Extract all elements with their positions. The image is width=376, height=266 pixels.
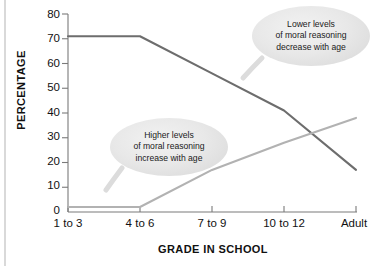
callout-lower-levels: Lower levels of moral reasoning decrease… [252,6,370,66]
callout-lower-tail [243,58,262,78]
callout-higher-levels: Higher levels of moral reasoning increas… [110,118,228,176]
callout-higher-line3: increase with age [127,153,210,164]
callout-lower-line3: decrease with age [269,42,352,53]
chart-figure: PERCENTAGE 80 70 60 50 40 30 20 10 0 [0,0,376,266]
y-tick-marks [62,14,68,187]
x-axis-title: GRADE IN SCHOOL [68,243,358,255]
callout-higher-line2: of moral reasoning [127,141,210,152]
callout-higher-line1: Higher levels [127,130,210,141]
x-tick-label: 4 to 6 [126,217,155,229]
x-tick-label: Adult [341,217,367,229]
callout-lower-line2: of moral reasoning [269,30,352,41]
x-tick-label: 1 to 3 [54,217,83,229]
callout-higher-tail [106,168,122,190]
x-tick-label: 7 to 9 [198,217,227,229]
x-tick-label: 10 to 12 [263,217,305,229]
callout-lower-line1: Lower levels [269,19,352,30]
